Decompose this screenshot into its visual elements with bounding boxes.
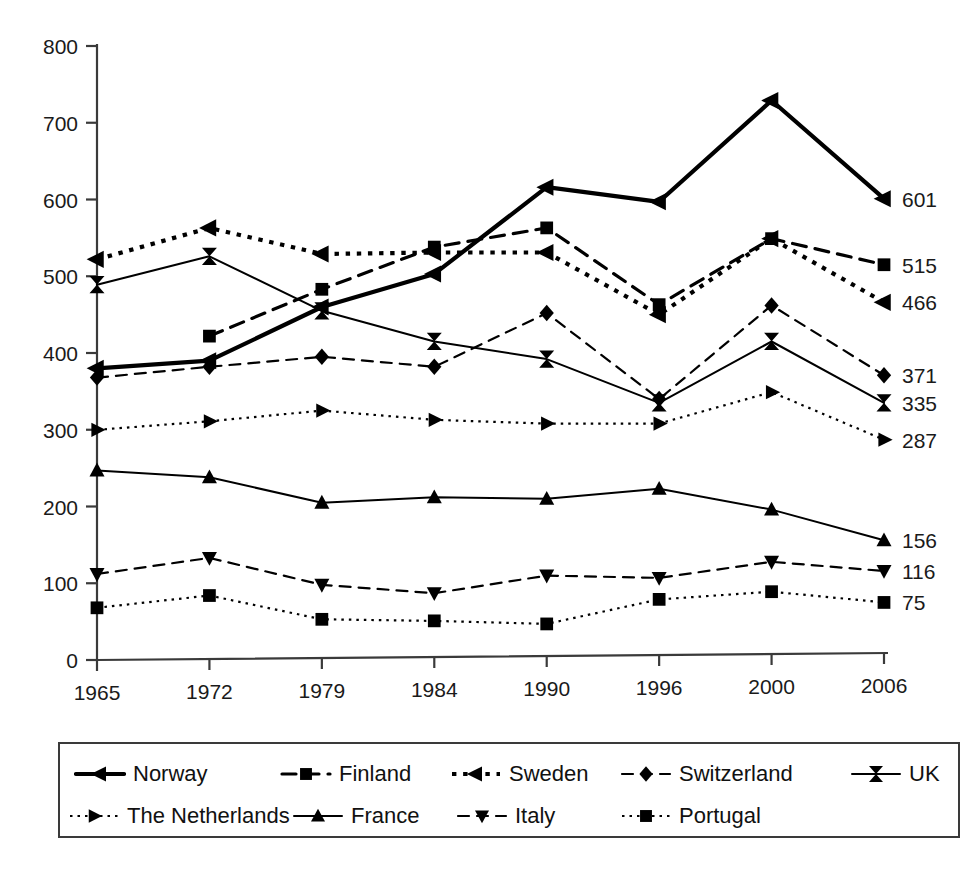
legend-swatch-the-netherlands bbox=[68, 803, 120, 829]
y-tick-label: 800 bbox=[43, 35, 78, 58]
legend-item-uk[interactable]: UK bbox=[850, 754, 940, 794]
data-point-marker bbox=[90, 568, 105, 582]
x-tick-label: 1979 bbox=[298, 679, 345, 702]
data-point-marker bbox=[652, 394, 667, 411]
legend-label: The Netherlands bbox=[127, 805, 290, 827]
legend-row: The NetherlandsFranceItalyPortugal bbox=[60, 796, 958, 836]
data-point-marker bbox=[315, 283, 328, 296]
data-point-marker bbox=[202, 248, 217, 265]
data-point-marker bbox=[424, 265, 441, 282]
series-end-label: 116 bbox=[902, 560, 935, 583]
series-end-label: 515 bbox=[902, 254, 937, 277]
data-point-marker bbox=[649, 193, 666, 210]
data-point-marker bbox=[316, 403, 330, 417]
series-end-label: 371 bbox=[902, 364, 937, 387]
data-point-marker bbox=[878, 433, 892, 447]
legend-item-italy[interactable]: Italy bbox=[456, 796, 555, 836]
legend-item-france[interactable]: France bbox=[292, 796, 419, 836]
data-point-marker bbox=[429, 413, 443, 427]
legend-swatch-uk bbox=[850, 761, 902, 787]
series-end-label: 335 bbox=[902, 392, 937, 415]
y-tick-label: 400 bbox=[43, 342, 78, 365]
data-point-marker bbox=[199, 219, 216, 236]
series-end-label: 466 bbox=[902, 291, 937, 314]
legend-swatch-switzerland bbox=[620, 761, 672, 787]
legend-swatch-portugal bbox=[620, 803, 672, 829]
data-point-marker bbox=[877, 565, 892, 579]
data-point-marker bbox=[427, 359, 441, 376]
legend-item-switzerland[interactable]: Switzerland bbox=[620, 754, 793, 794]
data-point-marker bbox=[203, 589, 216, 602]
data-point-marker bbox=[874, 294, 891, 311]
x-tick-label: 1996 bbox=[636, 676, 683, 699]
data-point-marker bbox=[315, 613, 328, 626]
y-tick-label: 200 bbox=[43, 496, 78, 519]
data-point-marker bbox=[765, 585, 778, 598]
y-tick-label: 100 bbox=[43, 572, 78, 595]
data-point-marker bbox=[766, 385, 780, 399]
legend-label: France bbox=[351, 805, 419, 827]
data-point-marker bbox=[315, 349, 329, 366]
series-markers bbox=[87, 92, 893, 630]
x-axis-tick-labels: 19651972197919841990199620002006 bbox=[74, 674, 908, 704]
data-point-marker bbox=[653, 593, 666, 606]
data-point-marker bbox=[91, 423, 105, 437]
legend-label: Switzerland bbox=[679, 763, 793, 785]
data-point-marker bbox=[427, 587, 442, 601]
legend-item-the-netherlands[interactable]: The Netherlands bbox=[68, 796, 290, 836]
data-point-marker bbox=[654, 416, 668, 430]
legend-item-portugal[interactable]: Portugal bbox=[620, 796, 761, 836]
data-point-marker bbox=[764, 333, 779, 350]
legend-item-norway[interactable]: Norway bbox=[74, 754, 208, 794]
legend-swatch-sweden bbox=[450, 761, 502, 787]
data-point-marker bbox=[428, 614, 441, 627]
legend-item-finland[interactable]: Finland bbox=[280, 754, 411, 794]
legend-label: Norway bbox=[133, 763, 208, 785]
series-end-label: 75 bbox=[902, 591, 925, 614]
data-point-marker bbox=[764, 297, 778, 314]
plot-area: 19651972197919841990199620002006 0100200… bbox=[0, 0, 979, 730]
series-end-label: 287 bbox=[902, 429, 937, 452]
x-tick-label: 1972 bbox=[186, 680, 233, 703]
legend-marker-icon bbox=[639, 766, 652, 781]
data-point-marker bbox=[878, 258, 891, 271]
data-point-marker bbox=[652, 572, 667, 586]
x-tick-label: 1990 bbox=[523, 677, 570, 700]
data-point-marker bbox=[90, 463, 105, 477]
x-tick-label: 2006 bbox=[861, 674, 908, 697]
data-point-marker bbox=[878, 596, 891, 609]
y-tick-label: 700 bbox=[43, 112, 78, 135]
legend-label: Sweden bbox=[509, 763, 589, 785]
legend-label: Finland bbox=[339, 763, 411, 785]
data-point-marker bbox=[877, 367, 891, 384]
y-tick-label: 600 bbox=[43, 189, 78, 212]
x-tick-label: 2000 bbox=[748, 675, 795, 698]
y-tick-label: 0 bbox=[66, 649, 78, 672]
y-tick-label: 500 bbox=[43, 265, 78, 288]
series-end-label: 156 bbox=[902, 529, 937, 552]
legend-marker-icon bbox=[467, 766, 482, 781]
legend-label: Italy bbox=[515, 805, 555, 827]
legend-label: UK bbox=[909, 763, 940, 785]
legend-swatch-france bbox=[292, 803, 344, 829]
x-tick-label: 1965 bbox=[74, 681, 121, 704]
series-end-labels: 60151546637133528715611675 bbox=[902, 188, 937, 615]
data-point-marker bbox=[540, 222, 553, 235]
legend-marker-icon bbox=[89, 809, 102, 822]
legend-marker-icon bbox=[91, 766, 106, 781]
x-tick-label: 1984 bbox=[411, 678, 458, 701]
y-axis-tick-labels: 0100200300400500600700800 bbox=[43, 35, 78, 672]
series-line bbox=[97, 256, 884, 403]
data-point-marker bbox=[652, 481, 667, 495]
legend-marker-icon bbox=[640, 810, 652, 822]
legend-swatch-finland bbox=[280, 761, 332, 787]
data-point-marker bbox=[541, 416, 555, 430]
data-point-marker bbox=[87, 251, 104, 268]
legend-row: NorwayFinlandSwedenSwitzerlandUK bbox=[60, 754, 958, 794]
line-chart: 19651972197919841990199620002006 0100200… bbox=[0, 0, 979, 883]
data-point-marker bbox=[540, 618, 553, 631]
legend-swatch-italy bbox=[456, 803, 508, 829]
legend-swatch-norway bbox=[74, 761, 126, 787]
data-point-marker bbox=[427, 489, 442, 503]
legend-item-sweden[interactable]: Sweden bbox=[450, 754, 589, 794]
